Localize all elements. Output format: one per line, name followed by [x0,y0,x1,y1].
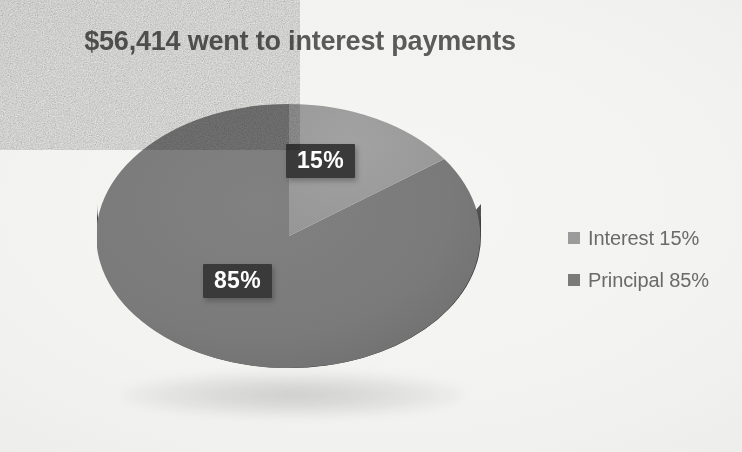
legend-item-principal: Principal 85% [568,264,738,296]
data-label-interest: 15% [286,144,355,178]
data-label-principal: 85% [203,264,272,298]
pie-chart-figure: $56,414 went to interest payments [0,0,742,452]
legend-item-interest: Interest 15% [568,222,738,254]
pie-graphic [97,96,481,402]
legend-label-interest: Interest 15% [588,227,699,250]
chart-legend: Interest 15% Principal 85% [568,222,738,306]
pie-svg [97,96,481,402]
chart-title: $56,414 went to interest payments [0,26,600,57]
legend-label-principal: Principal 85% [588,269,709,292]
legend-swatch-interest-icon [568,232,580,244]
legend-swatch-principal-icon [568,274,580,286]
